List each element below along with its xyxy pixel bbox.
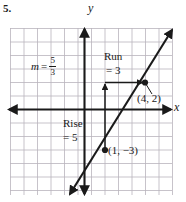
rise-label-line1: Rise: [63, 117, 83, 131]
grid-lines: [10, 28, 173, 195]
slope-numerator: 5: [49, 56, 56, 65]
run-label-line1: Run: [104, 50, 122, 64]
point-4-2: [142, 79, 148, 85]
slope-denominator: 3: [49, 68, 56, 77]
point-b-label: (1, −3): [108, 145, 138, 156]
slope-variable: m: [31, 61, 39, 72]
slope-annotation: m = 5 3: [31, 56, 56, 78]
point-a-label: (4, 2): [137, 93, 161, 104]
rise-label-line2: = 5: [63, 131, 83, 145]
run-label-line2: = 3: [104, 64, 122, 78]
slope-fraction: 5 3: [49, 56, 56, 78]
run-annotation: Run = 3: [104, 50, 122, 78]
slope-equals: =: [41, 61, 47, 72]
x-axis-label: x: [174, 101, 179, 113]
figure-container: 5.: [0, 0, 186, 202]
rise-annotation: Rise = 5: [63, 117, 83, 145]
y-axis-label: y: [88, 2, 93, 14]
